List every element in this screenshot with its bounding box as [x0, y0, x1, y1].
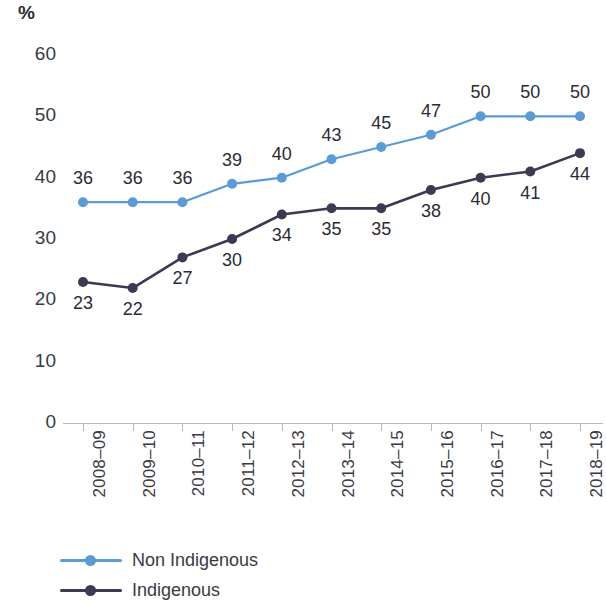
x-axis-tick-mark	[182, 423, 183, 431]
legend-label-indigenous: Indigenous	[132, 580, 220, 601]
data-point-marker[interactable]	[376, 142, 386, 152]
legend-swatch-non-indigenous	[60, 553, 122, 567]
y-axis-unit-label: %	[18, 2, 35, 24]
value-label: 34	[260, 225, 304, 246]
value-label: 41	[508, 183, 552, 204]
value-label: 50	[558, 82, 602, 103]
value-label: 30	[210, 250, 254, 271]
data-point-marker[interactable]	[128, 283, 138, 293]
value-label: 44	[558, 164, 602, 185]
value-label: 45	[359, 113, 403, 134]
x-axis-tick-mark	[332, 423, 333, 431]
data-point-marker[interactable]	[177, 197, 187, 207]
data-point-marker[interactable]	[327, 154, 337, 164]
legend-swatch-indigenous	[60, 583, 122, 597]
data-point-marker[interactable]	[78, 277, 88, 287]
x-axis-tick-mark	[282, 423, 283, 431]
y-axis-tick-30: 30	[8, 227, 56, 249]
x-axis-label-10: 2018–19	[587, 430, 606, 498]
y-axis-tick-50: 50	[8, 104, 56, 126]
value-label: 35	[310, 219, 354, 240]
value-label: 23	[61, 293, 105, 314]
x-axis-label-0: 2008–09	[90, 430, 110, 498]
data-point-marker[interactable]	[177, 252, 187, 262]
x-axis-label-2: 2010–11	[189, 430, 209, 496]
x-axis-label-8: 2016–17	[488, 430, 508, 498]
chart-container: % 0102030405060 2008–092009–102010–11201…	[0, 0, 606, 606]
value-label: 36	[61, 168, 105, 189]
x-axis-tick-mark	[232, 423, 233, 431]
data-point-marker[interactable]	[476, 173, 486, 183]
y-axis-tick-10: 10	[8, 350, 56, 372]
x-axis-tick-mark	[83, 423, 84, 431]
y-axis-tick-40: 40	[8, 166, 56, 188]
value-label: 22	[111, 299, 155, 320]
y-axis-tick-60: 60	[8, 43, 56, 65]
x-axis-label-6: 2014–15	[388, 430, 408, 498]
legend-label-non-indigenous: Non Indigenous	[132, 550, 258, 571]
x-axis-tick-mark	[381, 423, 382, 431]
data-point-marker[interactable]	[128, 197, 138, 207]
data-point-marker[interactable]	[78, 197, 88, 207]
data-point-marker[interactable]	[227, 234, 237, 244]
x-axis-label-9: 2017–18	[537, 430, 557, 498]
y-axis-tick-20: 20	[8, 288, 56, 310]
chart-legend: Non Indigenous Indigenous	[60, 545, 258, 605]
x-axis-tick-mark	[580, 423, 581, 431]
value-label: 50	[508, 82, 552, 103]
legend-item-non-indigenous[interactable]: Non Indigenous	[60, 545, 258, 575]
y-axis-tick-0: 0	[8, 411, 56, 433]
value-label: 40	[260, 144, 304, 165]
value-label: 27	[160, 268, 204, 289]
x-axis-label-5: 2013–14	[339, 430, 359, 498]
x-axis-tick-mark	[431, 423, 432, 431]
x-axis-label-7: 2015–16	[438, 430, 458, 498]
value-label: 38	[409, 201, 453, 222]
x-axis-tick-mark	[133, 423, 134, 431]
data-point-marker[interactable]	[575, 111, 585, 121]
x-axis-line	[63, 423, 603, 424]
value-label: 35	[359, 219, 403, 240]
data-point-marker[interactable]	[525, 167, 535, 177]
data-point-marker[interactable]	[575, 148, 585, 158]
data-point-marker[interactable]	[476, 111, 486, 121]
x-axis-label-1: 2009–10	[140, 430, 160, 498]
data-point-marker[interactable]	[426, 185, 436, 195]
data-point-marker[interactable]	[227, 179, 237, 189]
x-axis-tick-mark	[530, 423, 531, 431]
value-label: 36	[111, 168, 155, 189]
legend-item-indigenous[interactable]: Indigenous	[60, 575, 258, 605]
x-axis-tick-mark	[481, 423, 482, 431]
data-point-marker[interactable]	[376, 203, 386, 213]
value-label: 43	[310, 125, 354, 146]
value-label: 47	[409, 101, 453, 122]
x-axis-label-3: 2011–12	[239, 430, 259, 496]
value-label: 39	[210, 150, 254, 171]
x-axis-label-4: 2012–13	[289, 430, 309, 498]
data-point-marker[interactable]	[426, 130, 436, 140]
data-point-marker[interactable]	[277, 209, 287, 219]
data-point-marker[interactable]	[327, 203, 337, 213]
value-label: 40	[459, 189, 503, 210]
value-label: 36	[160, 168, 204, 189]
data-point-marker[interactable]	[525, 111, 535, 121]
value-label: 50	[459, 82, 503, 103]
data-point-marker[interactable]	[277, 173, 287, 183]
